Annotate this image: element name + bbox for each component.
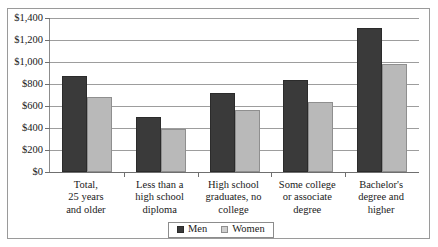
plot-area: $0$200$400$600$800$1,000$1,200$1,400	[49, 18, 418, 172]
category-label: Some collegeor associatedegree	[270, 179, 344, 216]
category-label: Bachelor'sdegree andhigher	[344, 179, 418, 216]
bar-group	[136, 18, 186, 172]
y-axis-tick-label: $1,200	[14, 35, 43, 46]
bar-group	[357, 18, 407, 172]
gridline	[50, 172, 419, 173]
chart-legend: MenWomen	[168, 222, 274, 238]
category-label-line: higher	[344, 204, 418, 216]
category-label-line: Some college	[270, 179, 344, 191]
category-label-line: degree and	[344, 191, 418, 203]
category-label-line: college	[197, 204, 271, 216]
bar-group	[62, 18, 112, 172]
y-axis-tick-label: $1,000	[14, 57, 43, 68]
bar-women	[308, 102, 333, 172]
category-label-line: 25 years	[49, 191, 123, 203]
y-axis-tick	[45, 172, 50, 173]
bar-men	[283, 80, 308, 172]
y-axis-tick-label: $400	[22, 123, 43, 134]
category-label-line: Total,	[49, 179, 123, 191]
bar-men	[136, 117, 161, 172]
y-axis-tick-label: $800	[22, 79, 43, 90]
bars-layer	[50, 18, 419, 172]
x-axis-category-labels: Total,25 yearsand olderLess than ahigh s…	[49, 179, 418, 221]
y-axis-tick-label: $200	[22, 145, 43, 156]
category-label-line: and older	[49, 204, 123, 216]
legend-label: Women	[232, 224, 264, 235]
bar-men	[62, 76, 87, 172]
chart-figure: $0$200$400$600$800$1,000$1,200$1,400 Tot…	[0, 0, 438, 247]
bar-women	[382, 64, 407, 172]
category-label-line: Bachelor's	[344, 179, 418, 191]
category-label-line: or associate	[270, 191, 344, 203]
legend-swatch-icon	[221, 226, 228, 233]
category-label-line: graduates, no	[197, 191, 271, 203]
category-label-line: High school	[197, 179, 271, 191]
bar-group	[210, 18, 260, 172]
category-label-line: degree	[270, 204, 344, 216]
legend-swatch-icon	[177, 226, 184, 233]
y-axis-tick-label: $0	[33, 167, 44, 178]
legend-label: Men	[188, 224, 207, 235]
bar-men	[357, 28, 382, 172]
legend-item-women: Women	[221, 224, 264, 235]
x-axis-tick	[345, 172, 346, 177]
bar-women	[161, 129, 186, 172]
x-axis-tick	[198, 172, 199, 177]
category-label: High schoolgraduates, nocollege	[197, 179, 271, 216]
category-label-line: diploma	[123, 204, 197, 216]
category-label: Total,25 yearsand older	[49, 179, 123, 216]
bar-women	[87, 97, 112, 172]
category-label-line: high school	[123, 191, 197, 203]
bar-men	[210, 93, 235, 172]
bar-group	[283, 18, 333, 172]
bar-women	[235, 110, 260, 172]
y-axis-tick-label: $1,400	[14, 13, 43, 24]
x-axis-tick	[271, 172, 272, 177]
category-label-line: Less than a	[123, 179, 197, 191]
x-axis-tick	[124, 172, 125, 177]
y-axis-tick-label: $600	[22, 101, 43, 112]
legend-item-men: Men	[177, 224, 207, 235]
category-label: Less than ahigh schooldiploma	[123, 179, 197, 216]
